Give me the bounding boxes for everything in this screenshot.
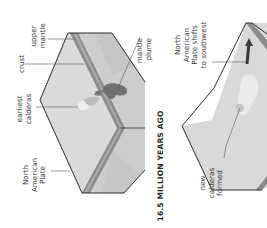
svg-text:16.5 MILLION YEARS AGO: 16.5 MILLION YEARS AGO	[156, 110, 165, 221]
panel-1-title: 16.5 MILLION YEARS AGO	[156, 110, 165, 221]
svg-text:crust: crust	[17, 55, 26, 73]
label-earliest-calderas: earliestcalderas	[15, 94, 33, 125]
svg-text:newcalderasformed: newcalderasformed	[198, 168, 224, 199]
label-crust: crust	[17, 55, 26, 73]
label-plate-shift: NorthAmericanPlate shiftsto southwest	[173, 22, 208, 69]
yellowstone-hotspot-diagram: uppermantle crust mantleplume earliestca…	[0, 0, 267, 228]
label-north-american-plate: NorthAmericanPlate	[21, 158, 47, 192]
svg-text:uppermantle: uppermantle	[29, 23, 47, 49]
label-upper-mantle: uppermantle	[29, 23, 47, 49]
svg-text:NorthAmericanPlate shiftsto so: NorthAmericanPlate shiftsto southwest	[173, 22, 208, 69]
svg-text:NorthAmericanPlate: NorthAmericanPlate	[21, 158, 47, 192]
svg-text:earliestcalderas: earliestcalderas	[15, 94, 33, 125]
label-new-calderas: newcalderasformed	[198, 168, 224, 199]
panel-1-block	[40, 33, 145, 193]
label-mantle-plume: mantleplume	[135, 37, 153, 63]
svg-text:mantleplume: mantleplume	[135, 37, 153, 63]
